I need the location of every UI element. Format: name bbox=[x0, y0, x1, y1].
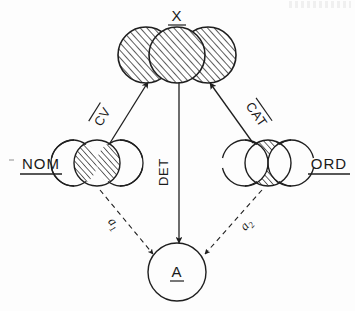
edge-a2: a2 bbox=[205, 190, 262, 254]
diagram-canvas: CV CAT DET a1 bbox=[0, 0, 355, 311]
edge-cv-label-group: CV bbox=[89, 103, 115, 130]
edge-cv: CV bbox=[89, 82, 148, 143]
edge-a1-label: a1 bbox=[103, 214, 123, 234]
edge-a1: a1 bbox=[100, 190, 153, 254]
edge-a1-label-group: a1 bbox=[103, 214, 123, 234]
node-x-label: X bbox=[171, 7, 182, 24]
edge-a2-label-group: a2 bbox=[236, 215, 257, 235]
edge-cv-line bbox=[110, 82, 148, 143]
node-nom-arc-right-inner-bottom bbox=[108, 182, 120, 187]
node-ord: ORD bbox=[223, 140, 351, 186]
edge-a2-line bbox=[205, 190, 262, 254]
node-nom-arc-left-inner-top bbox=[74, 140, 86, 145]
node-ord-arc-left-top bbox=[223, 140, 246, 158]
edge-det: DET bbox=[156, 80, 179, 243]
node-a-label: A bbox=[171, 263, 182, 280]
edge-det-label-group: DET bbox=[156, 158, 171, 186]
edge-cat: CAT bbox=[210, 83, 272, 143]
node-nom-hatch-group bbox=[51, 140, 143, 186]
node-ord-arc-left-bottom bbox=[223, 168, 246, 186]
edge-cat-label: CAT bbox=[243, 99, 271, 130]
node-a: A bbox=[148, 243, 206, 301]
path-diagram: CV CAT DET a1 bbox=[0, 0, 355, 311]
node-nom-lens-right-edge bbox=[120, 140, 143, 186]
node-ord-label: ORD bbox=[311, 155, 347, 172]
edge-a2-label: a2 bbox=[236, 215, 257, 235]
node-nom-arc-left-inner-bottom bbox=[74, 182, 86, 187]
node-nom: NOM bbox=[9, 140, 143, 186]
node-x: X bbox=[118, 7, 236, 83]
node-x-circle-center bbox=[149, 27, 205, 83]
edge-cv-label: CV bbox=[91, 104, 114, 128]
edge-cat-label-group: CAT bbox=[243, 98, 273, 130]
edge-det-label: DET bbox=[156, 158, 171, 186]
node-nom-label: NOM bbox=[22, 155, 60, 172]
